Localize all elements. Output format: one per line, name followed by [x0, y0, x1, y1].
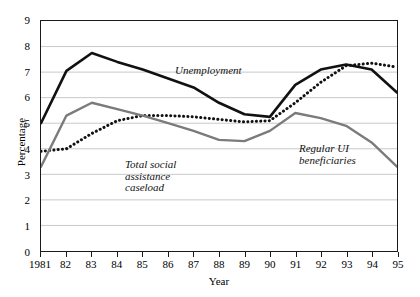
- y-tick-label: 0: [25, 247, 31, 258]
- x-tick-mark: [168, 252, 169, 257]
- x-tick-label: 94: [367, 259, 378, 270]
- x-tick-mark: [270, 252, 271, 257]
- x-tick-mark: [193, 252, 194, 257]
- plot-area: Unemployment Total social assistance cas…: [40, 20, 398, 252]
- x-tick-label: 85: [137, 259, 148, 270]
- x-tick-label: 92: [316, 259, 327, 270]
- x-tick-mark: [66, 252, 67, 257]
- x-tick-label: 91: [290, 259, 301, 270]
- x-axis: 19818283848586878889909192939495: [40, 252, 398, 276]
- x-tick-mark: [142, 252, 143, 257]
- x-tick-label: 89: [239, 259, 250, 270]
- chart-screenshot: 0123456789 Percentage Unemployment Total…: [0, 0, 420, 297]
- x-tick-mark: [296, 252, 297, 257]
- x-tick-label: 1981: [29, 259, 51, 270]
- y-axis-title: Percentage: [15, 82, 27, 202]
- x-tick-mark: [245, 252, 246, 257]
- x-tick-mark: [91, 252, 92, 257]
- x-tick-label: 84: [111, 259, 122, 270]
- x-axis-title: Year: [40, 275, 398, 287]
- x-tick-label: 86: [162, 259, 173, 270]
- y-tick-label: 8: [25, 40, 31, 51]
- x-tick-label: 88: [214, 259, 225, 270]
- y-tick-label: 9: [25, 15, 31, 26]
- x-tick-label: 83: [86, 259, 97, 270]
- x-tick-mark: [347, 252, 348, 257]
- x-tick-mark: [117, 252, 118, 257]
- annotation-regular-ui-beneficiaries: Regular UI beneficiaries: [299, 143, 356, 166]
- y-tick-label: 7: [25, 66, 31, 77]
- series-lines: [41, 21, 397, 251]
- x-tick-mark: [40, 252, 41, 257]
- x-tick-label: 93: [341, 259, 352, 270]
- x-tick-label: 90: [265, 259, 276, 270]
- x-tick-mark: [372, 252, 373, 257]
- x-tick-label: 82: [60, 259, 71, 270]
- annotation-total-social-assistance-caseload: Total social assistance caseload: [125, 159, 176, 194]
- y-tick-label: 1: [25, 221, 31, 232]
- x-tick-mark: [321, 252, 322, 257]
- x-tick-label: 87: [188, 259, 199, 270]
- annotation-unemployment: Unemployment: [175, 65, 242, 77]
- x-tick-label: 95: [393, 259, 404, 270]
- x-tick-mark: [219, 252, 220, 257]
- x-tick-mark: [398, 252, 399, 257]
